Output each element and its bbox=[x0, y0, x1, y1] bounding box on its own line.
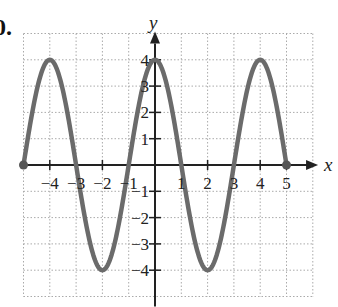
svg-text:1: 1 bbox=[141, 130, 150, 149]
svg-text:3: 3 bbox=[230, 174, 239, 193]
svg-text:y: y bbox=[147, 12, 158, 33]
svg-text:2: 2 bbox=[141, 103, 150, 122]
svg-text:−3: −3 bbox=[131, 235, 149, 254]
svg-text:−2: −2 bbox=[93, 174, 111, 193]
axes bbox=[24, 32, 319, 307]
svg-text:4: 4 bbox=[141, 51, 150, 70]
svg-text:x: x bbox=[323, 154, 333, 175]
svg-text:−4: −4 bbox=[131, 261, 150, 280]
svg-text:−1: −1 bbox=[131, 182, 149, 201]
svg-text:1: 1 bbox=[177, 174, 186, 193]
svg-text:−4: −4 bbox=[41, 174, 60, 193]
svg-text:−3: −3 bbox=[67, 174, 85, 193]
tick-labels: −4−3−2−112345−4−3−2−11234xy bbox=[41, 12, 333, 281]
svg-text:5: 5 bbox=[282, 174, 291, 193]
svg-text:2: 2 bbox=[203, 174, 212, 193]
svg-text:4: 4 bbox=[256, 174, 265, 193]
svg-text:3: 3 bbox=[141, 77, 150, 96]
svg-text:−2: −2 bbox=[131, 209, 149, 228]
sine-graph: −4−3−2−112345−4−3−2−11234xy bbox=[0, 0, 338, 307]
